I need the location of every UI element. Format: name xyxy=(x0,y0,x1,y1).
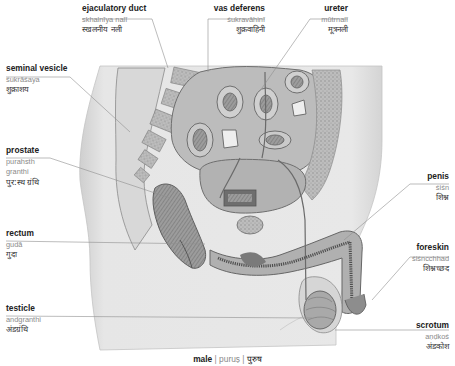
label-en: scrotum xyxy=(385,321,449,331)
caption-hindi: पुरुष xyxy=(247,354,262,364)
label-hindi: शिश्न xyxy=(395,193,449,202)
caption-separator: | xyxy=(215,354,217,364)
label-en: foreskin xyxy=(385,243,449,253)
label-prostate: prostate purahsth granthi पुर:स्थ ग्रंथि xyxy=(6,146,39,187)
label-scrotum: scrotum aṇḍkoś अंडकोश xyxy=(385,321,449,351)
label-transliteration-line2: granthi xyxy=(6,168,39,177)
label-hindi: स्खलनीय नली xyxy=(82,25,146,34)
label-en: penis xyxy=(395,172,449,182)
label-ureter: ureter mūtrnalī मूत्रनली xyxy=(298,4,348,34)
label-hindi: शिश्नच्छद xyxy=(385,264,449,273)
label-transliteration: śukravāhinī xyxy=(195,16,265,25)
caption-english: male xyxy=(193,354,212,364)
label-hindi: शुक्राशय xyxy=(6,85,67,94)
label-en: testicle xyxy=(6,304,41,314)
label-testicle: testicle andgranthi अंडग्रंथि xyxy=(6,304,41,334)
label-hindi: मूत्रनली xyxy=(298,25,348,34)
label-en: prostate xyxy=(6,146,39,156)
figure-caption: male | puruṣ | पुरुष xyxy=(0,353,455,364)
label-penis: penis śiśn शिश्न xyxy=(395,172,449,202)
label-en: vas deferens xyxy=(195,4,265,14)
label-transliteration: skhalnīya nalī xyxy=(82,16,146,25)
label-transliteration: mūtrnalī xyxy=(298,16,348,25)
intestines xyxy=(171,67,328,173)
label-transliteration: purahsth xyxy=(6,158,39,167)
label-transliteration: aṇḍkoś xyxy=(385,333,449,342)
caption-transliteration: puruṣ xyxy=(219,354,240,364)
label-transliteration: andgranthi xyxy=(6,316,41,325)
label-hindi: पुर:स्थ ग्रंथि xyxy=(6,178,39,187)
label-hindi: गुदा xyxy=(6,250,34,259)
label-vas-deferens: vas deferens śukravāhinī शुक्रवाहिनी xyxy=(195,4,265,34)
male-pelvis-illustration xyxy=(0,0,455,366)
label-seminal-vesicle: seminal vesicle śukrāśaya शुक्राशय xyxy=(6,64,67,94)
label-hindi: अंडकोश xyxy=(385,342,449,351)
label-en: ejaculatory duct xyxy=(82,4,146,14)
label-transliteration: gudā xyxy=(6,241,34,250)
label-transliteration: śiśncchhad xyxy=(385,255,449,264)
label-rectum: rectum gudā गुदा xyxy=(6,229,34,259)
label-transliteration: śiśn xyxy=(395,184,449,193)
label-en: seminal vesicle xyxy=(6,64,67,74)
label-hindi: अंडग्रंथि xyxy=(6,325,41,334)
label-en: ureter xyxy=(298,4,348,14)
anatomy-diagram: ejaculatory duct skhalnīya nalī स्खलनीय … xyxy=(0,0,455,366)
label-en: rectum xyxy=(6,229,34,239)
label-hindi: शुक्रवाहिनी xyxy=(195,25,265,34)
caption-separator: | xyxy=(242,354,244,364)
label-ejaculatory-duct: ejaculatory duct skhalnīya nalī स्खलनीय … xyxy=(82,4,146,34)
label-transliteration: śukrāśaya xyxy=(6,76,67,85)
label-foreskin: foreskin śiśncchhad शिश्नच्छद xyxy=(385,243,449,273)
